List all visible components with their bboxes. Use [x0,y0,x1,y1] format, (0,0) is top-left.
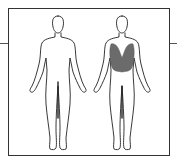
body-figures [0,0,177,166]
back-body-figure [94,16,150,150]
front-body-figure [30,16,86,150]
highlighted-upper-back-region [110,44,134,72]
